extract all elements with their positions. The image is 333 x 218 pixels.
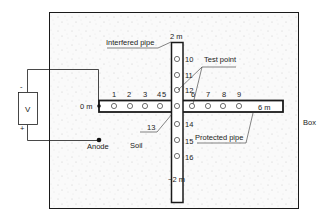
svg-text:14: 14 — [185, 120, 193, 129]
box-label: Box — [303, 118, 316, 127]
interfered-pipe-top-label: 2 m — [170, 32, 183, 41]
svg-text:2: 2 — [127, 90, 131, 99]
svg-text:5: 5 — [162, 90, 166, 99]
interfered-pipe-label: Interfered pipe — [106, 38, 154, 47]
pipe-connection-point — [97, 104, 101, 108]
negative-terminal-label: - — [20, 82, 23, 91]
svg-text:13: 13 — [147, 123, 155, 132]
svg-text:4: 4 — [157, 90, 161, 99]
voltmeter-label: V — [25, 105, 31, 114]
protected-pipe — [99, 101, 283, 113]
svg-text:12: 12 — [185, 86, 193, 95]
svg-text:7: 7 — [206, 90, 210, 99]
soil-label: Soil — [130, 141, 143, 150]
svg-text:10: 10 — [185, 55, 193, 64]
positive-terminal-label: + — [20, 124, 25, 133]
svg-text:8: 8 — [222, 90, 226, 99]
protected-pipe-end-label: 6 m — [258, 103, 271, 112]
interfered-pipe-bottom-label: −2 m — [168, 175, 185, 184]
svg-text:9: 9 — [237, 90, 241, 99]
svg-text:15: 15 — [185, 137, 193, 146]
protected-pipe-start-label: 0 m — [80, 102, 93, 111]
protected-pipe-label: Protected pipe — [195, 133, 243, 142]
svg-text:11: 11 — [185, 71, 193, 80]
svg-text:16: 16 — [185, 153, 193, 162]
pipeline-interference-diagram: V - + Anode Soil 1 2 3 4 5 6 7 8 9 — [0, 0, 333, 218]
anode-label: Anode — [87, 142, 109, 151]
test-point-label: Test point — [204, 55, 237, 64]
svg-text:1: 1 — [112, 90, 116, 99]
svg-text:3: 3 — [143, 90, 147, 99]
